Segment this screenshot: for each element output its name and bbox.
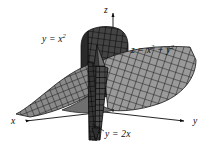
label-z-exponent2: 2 bbox=[171, 43, 174, 50]
label-plane-line-equation: y = 2x bbox=[105, 130, 131, 140]
label-y-eq: = bbox=[46, 34, 58, 44]
x-axis-label: x bbox=[11, 117, 15, 127]
label-z-plus: + bbox=[155, 45, 167, 55]
label-y-exponent: 2 bbox=[63, 32, 66, 39]
label-z-eq: = bbox=[135, 45, 147, 55]
label-parabolic-cylinder-equation: y = x2 bbox=[42, 33, 66, 45]
y-axis-label: y bbox=[193, 117, 197, 127]
math-figure-3d-surface-plot: y = x2 z = x2 + y2 y = 2x x y z bbox=[0, 0, 208, 152]
z-axis-label: z bbox=[104, 6, 108, 16]
y-axis-line bbox=[104, 112, 184, 121]
label-paraboloid-equation: z = x2 + y2 bbox=[131, 44, 174, 56]
figure-canvas bbox=[0, 0, 208, 152]
